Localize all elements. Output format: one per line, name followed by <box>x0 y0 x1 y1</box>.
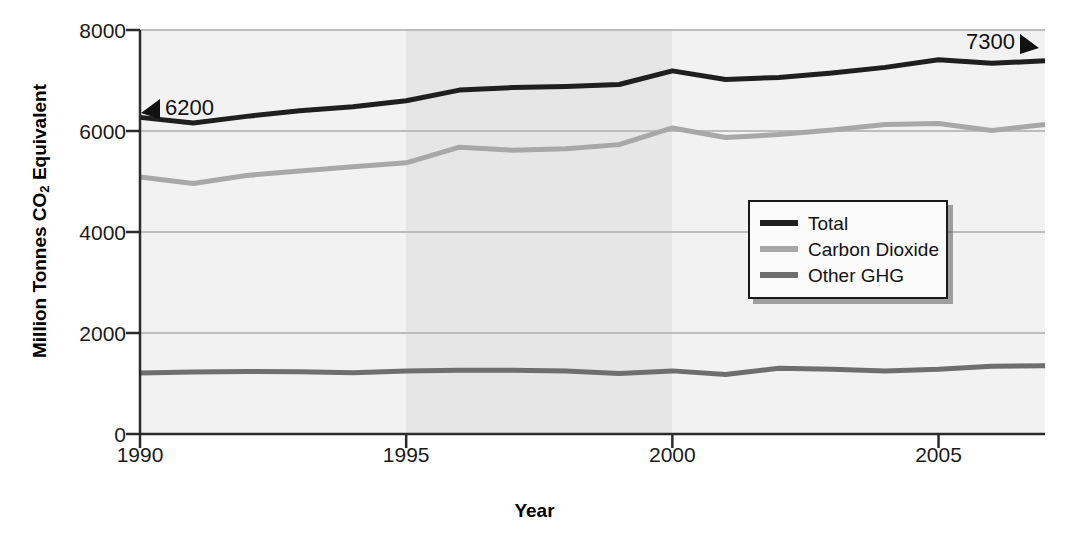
x-axis-title: Year <box>0 500 1069 522</box>
legend-item-other-ghg[interactable]: Other GHG <box>760 262 936 288</box>
y-axis-title-subscript: 2 <box>37 185 52 192</box>
annotation-end-label: 7300 <box>966 31 1015 53</box>
y-axis-title: Million Tonnes CO2 Equivalent <box>29 11 51 431</box>
annotation-end-value: 7300 <box>966 30 1040 54</box>
legend-swatch-icon <box>760 246 798 252</box>
x-axis-tick-label: 2005 <box>915 444 962 465</box>
chart-legend: TotalCarbon DioxideOther GHG <box>748 200 948 299</box>
legend-swatch-icon <box>760 272 798 278</box>
legend-item-label: Other GHG <box>808 266 904 285</box>
right-arrow-icon <box>1018 30 1040 54</box>
ghg-emissions-chart-figure: 02000400060008000 1990199520002005 Milli… <box>0 0 1069 544</box>
legend-swatch-icon <box>760 220 798 226</box>
x-axis-tick-label: 1995 <box>383 444 430 465</box>
x-axis-tick-label: 1990 <box>117 444 164 465</box>
x-axis-tick-label: 2000 <box>649 444 696 465</box>
annotation-start-value: 6200 <box>140 96 214 120</box>
annotation-start-label: 6200 <box>165 97 214 119</box>
y-axis-title-suffix: Equivalent <box>29 84 50 185</box>
legend-item-label: Carbon Dioxide <box>808 240 939 259</box>
legend-item-total[interactable]: Total <box>760 210 936 236</box>
legend-item-carbon-dioxide[interactable]: Carbon Dioxide <box>760 236 936 262</box>
y-axis-title-prefix: Million Tonnes CO <box>29 193 50 358</box>
left-arrow-icon <box>140 96 162 120</box>
legend-item-label: Total <box>808 214 848 233</box>
